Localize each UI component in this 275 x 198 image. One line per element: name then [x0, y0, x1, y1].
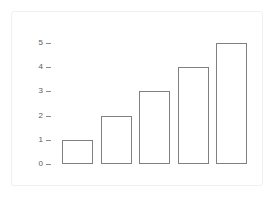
y-tick-label-3: 3 — [39, 86, 43, 96]
bar-1[interactable] — [62, 140, 93, 164]
figure-frame: 5 4 3 2 1 — [11, 11, 263, 186]
y-tick-mark-3 — [46, 91, 51, 92]
y-tick-label-1: 1 — [39, 135, 43, 145]
y-tick-mark-4 — [46, 67, 51, 68]
bar-series — [62, 30, 231, 164]
bar-2[interactable] — [101, 116, 132, 164]
bar-3[interactable] — [139, 91, 170, 164]
bar-4[interactable] — [178, 67, 209, 164]
y-tick-mark-2 — [46, 116, 51, 117]
y-tick-mark-1 — [46, 140, 51, 141]
y-tick-label-4: 4 — [39, 62, 43, 72]
bar-5[interactable] — [216, 43, 247, 164]
plot-area: 5 4 3 2 1 — [51, 31, 241, 165]
y-tick-mark-0 — [46, 164, 51, 165]
y-tick-mark-5 — [46, 43, 51, 44]
y-tick-label-2: 2 — [39, 111, 43, 121]
chart-screenshot: 5 4 3 2 1 — [0, 0, 275, 198]
y-tick-label-5: 5 — [39, 38, 43, 48]
y-tick-label-0: 0 — [39, 159, 43, 169]
